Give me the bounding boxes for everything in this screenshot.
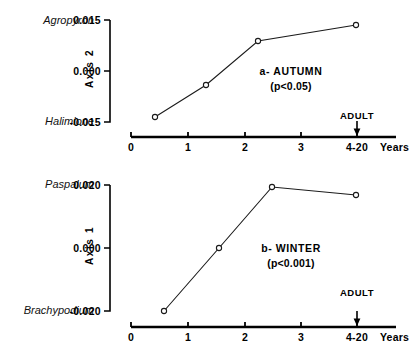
data-point-autumn-2 <box>255 38 260 43</box>
chart-svg-autumn <box>0 0 414 181</box>
x-tick-label-autumn-0: 0 <box>121 141 141 153</box>
data-point-winter-1 <box>216 245 221 250</box>
x-axis-unit-autumn: Years <box>380 141 409 153</box>
plot-area-winter: Paspalum Brachypodium 0.020 0.000 -0.020… <box>0 160 414 362</box>
data-markers-winter <box>161 184 358 313</box>
data-point-winter-2 <box>269 184 274 189</box>
x-tick-label-winter-1: 1 <box>178 331 198 343</box>
data-point-winter-3 <box>353 192 358 197</box>
data-point-autumn-1 <box>203 82 208 87</box>
data-point-autumn-0 <box>152 114 157 119</box>
adult-arrow-autumn <box>354 121 361 136</box>
data-point-winter-0 <box>161 308 166 313</box>
data-line-autumn <box>155 25 356 117</box>
data-line-winter <box>164 187 356 311</box>
x-tick-label-autumn-1: 1 <box>178 141 198 153</box>
y-axis-spine-winter <box>104 185 110 311</box>
adult-arrow-winter <box>354 311 361 326</box>
x-axis-unit-winter: Years <box>380 331 409 343</box>
data-markers-autumn <box>152 22 358 119</box>
x-tick-label-winter-4: 4-20 <box>337 331 377 343</box>
x-tick-label-winter-3: 3 <box>291 331 311 343</box>
x-tick-label-autumn-2: 2 <box>235 141 255 153</box>
chart-panel-autumn: Agropyron Halimione 0.015 0.000 -0.015 A… <box>0 0 414 181</box>
y-axis-spine-autumn <box>104 20 110 122</box>
plot-area-autumn: Agropyron Halimione 0.015 0.000 -0.015 A… <box>0 0 414 181</box>
x-tick-label-winter-2: 2 <box>235 331 255 343</box>
x-tick-label-autumn-4: 4-20 <box>337 141 377 153</box>
data-point-autumn-3 <box>353 22 358 27</box>
x-tick-label-autumn-3: 3 <box>291 141 311 153</box>
chart-panel-winter: Paspalum Brachypodium 0.020 0.000 -0.020… <box>0 160 414 362</box>
x-tick-label-winter-0: 0 <box>121 331 141 343</box>
